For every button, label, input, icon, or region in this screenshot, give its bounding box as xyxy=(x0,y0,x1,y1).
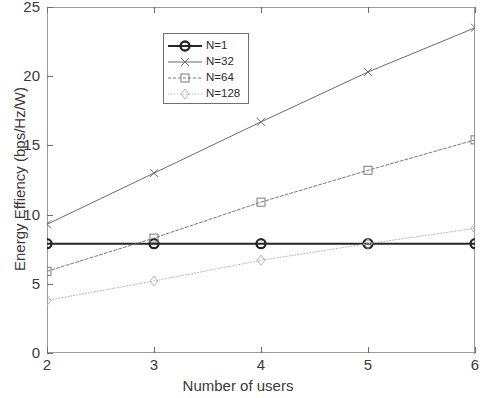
legend-label: N=128 xyxy=(206,88,240,100)
data-marker-cross xyxy=(257,118,265,126)
legend-sample-cross-icon xyxy=(167,54,203,70)
legend: N=1N=32N=64N=128 xyxy=(163,33,249,104)
data-marker-diamond xyxy=(257,255,265,265)
series-N-64 xyxy=(43,136,476,275)
data-marker-cross xyxy=(43,220,51,228)
legend-label: N=1 xyxy=(206,40,227,52)
legend-label: N=64 xyxy=(206,72,234,84)
series-N-1 xyxy=(43,239,477,248)
y-axis-title: Energy Effiency (bps/Hz/W) xyxy=(11,87,28,271)
legend-item: N=32 xyxy=(167,54,245,70)
legend-sample-circle-icon xyxy=(167,38,203,54)
data-marker-cross xyxy=(150,169,158,177)
series-N-32 xyxy=(43,24,476,229)
legend-item: N=64 xyxy=(167,70,245,86)
y-axis-title-wrapper: Energy Effiency (bps/Hz/W) xyxy=(11,0,29,359)
series-N-128 xyxy=(43,223,476,305)
data-marker-diamond xyxy=(181,89,189,99)
data-marker-cross xyxy=(471,24,476,32)
legend-sample-diamond-icon xyxy=(167,86,203,102)
data-marker-cross xyxy=(364,68,372,76)
legend-sample-square-icon xyxy=(167,70,203,86)
x-axis-title: Number of users xyxy=(0,377,476,394)
legend-item: N=1 xyxy=(167,38,245,54)
legend-item: N=128 xyxy=(167,86,245,102)
legend-label: N=32 xyxy=(206,56,234,68)
